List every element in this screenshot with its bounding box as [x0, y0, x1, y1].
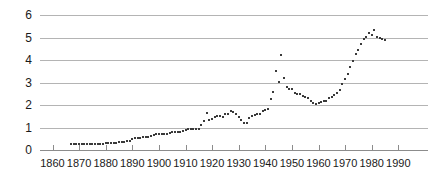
gridline-5 — [40, 38, 428, 39]
data-point — [238, 116, 240, 118]
x-tick-1880 — [106, 145, 107, 150]
x-tick-label-1990: 1990 — [381, 157, 415, 169]
data-point — [259, 113, 261, 115]
chart-container: 6543210 18601870188018901900191019201930… — [0, 0, 437, 175]
data-point — [203, 120, 205, 122]
gridline-2 — [40, 105, 428, 106]
data-point — [349, 66, 351, 68]
data-point — [373, 29, 375, 31]
data-point — [240, 119, 242, 121]
data-point — [341, 83, 343, 85]
data-point — [275, 70, 277, 72]
data-point — [280, 54, 282, 56]
plot-area: 6543210 18601870188018901900191019201930… — [0, 0, 437, 175]
data-point — [248, 117, 250, 119]
x-tick-1860 — [53, 145, 54, 150]
data-point — [272, 91, 274, 93]
data-point — [129, 140, 131, 142]
x-tick-1930 — [239, 145, 240, 150]
data-point — [325, 100, 327, 102]
x-tick-1890 — [132, 145, 133, 150]
data-point — [331, 96, 333, 98]
data-point — [360, 43, 362, 45]
data-point — [270, 98, 272, 100]
x-tick-1910 — [186, 145, 187, 150]
x-tick-1920 — [212, 145, 213, 150]
data-point — [352, 60, 354, 62]
data-point — [198, 128, 200, 130]
data-point — [347, 73, 349, 75]
data-point — [384, 39, 386, 41]
x-tick-1900 — [159, 145, 160, 150]
data-point — [235, 113, 237, 115]
gridline-6 — [40, 15, 428, 16]
data-point — [206, 112, 208, 114]
data-point — [344, 78, 346, 80]
y-tick-label-5: 5 — [6, 32, 32, 44]
data-point — [365, 36, 367, 38]
y-tick-label-0: 0 — [6, 144, 32, 156]
data-point — [357, 49, 359, 51]
data-point — [200, 124, 202, 126]
y-tick-label-3: 3 — [6, 77, 32, 89]
data-point — [307, 97, 309, 99]
x-tick-1970 — [345, 145, 346, 150]
x-tick-1960 — [319, 145, 320, 150]
data-point — [278, 81, 280, 83]
data-point — [371, 34, 373, 36]
x-tick-1980 — [372, 145, 373, 150]
x-tick-1870 — [79, 145, 80, 150]
gridline-1 — [40, 128, 428, 129]
data-point — [336, 92, 338, 94]
x-tick-1990 — [398, 145, 399, 150]
data-point — [246, 122, 248, 124]
data-point — [227, 113, 229, 115]
x-axis-baseline — [40, 150, 428, 151]
data-point — [283, 77, 285, 79]
data-point — [355, 53, 357, 55]
y-tick-label-1: 1 — [6, 122, 32, 134]
data-point — [222, 116, 224, 118]
data-point — [267, 108, 269, 110]
data-point — [339, 89, 341, 91]
y-tick-label-4: 4 — [6, 54, 32, 66]
x-tick-1940 — [265, 145, 266, 150]
data-point — [291, 88, 293, 90]
y-tick-label-6: 6 — [6, 9, 32, 21]
x-tick-1950 — [292, 145, 293, 150]
y-tick-label-2: 2 — [6, 99, 32, 111]
gridline-4 — [40, 60, 428, 61]
gridline-3 — [40, 83, 428, 84]
